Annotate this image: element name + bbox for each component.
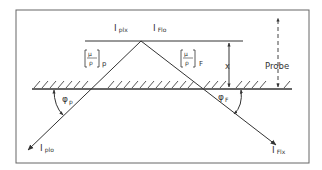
diagram-canvas: Iplx IFlo μ ρ p μ ρ F x Probe φp φF Iplo… [0,0,322,170]
label-i-flx: IFlx [272,145,286,155]
label-i-plx: Iplx [114,23,128,34]
svg-text:ρ: ρ [185,59,189,67]
angle-arc-phi-f [234,90,241,114]
svg-text:p: p [102,60,107,68]
svg-text:μ: μ [184,50,188,58]
svg-text:μ: μ [88,50,92,58]
primary-beam-ray [28,41,141,150]
label-phi-p: φp [62,94,73,106]
label-probe: Probe [265,61,289,71]
svg-text:ρ: ρ [89,59,93,67]
svg-text:F: F [199,60,203,68]
label-i-plo: Iplo [40,143,54,154]
fluorescence-ray [141,41,276,145]
label-phi-f: φF [218,92,229,103]
label-depth-x: x [225,62,230,71]
label-mu-rho-p: μ ρ p [85,50,107,68]
surface-hatching [34,81,290,88]
label-mu-rho-f: μ ρ F [181,50,203,68]
label-i-flo: IFlo [153,23,167,33]
